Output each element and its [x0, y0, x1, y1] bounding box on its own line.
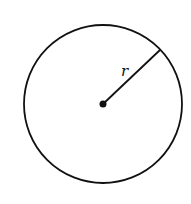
center-point [100, 101, 107, 108]
radius-label: r [121, 62, 129, 80]
radius-line [103, 50, 160, 104]
circle-diagram: r [0, 0, 191, 204]
